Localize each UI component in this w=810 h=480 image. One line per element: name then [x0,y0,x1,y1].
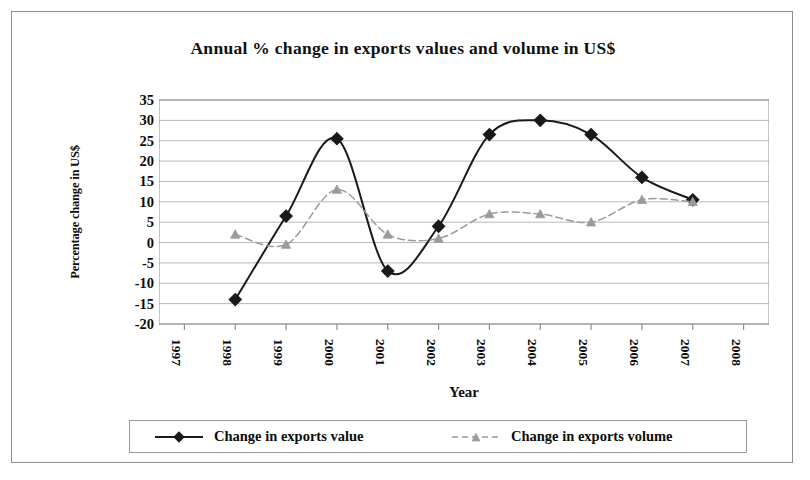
y-tick-label: 35 [140,93,155,107]
y-axis-label: Percentage change in US$ [68,145,83,279]
x-tick-label: 2001 [365,337,411,383]
y-tick-label: 30 [140,113,155,127]
data-series [230,115,698,305]
data-point-marker [281,211,291,221]
data-point-marker [281,240,290,248]
legend-marker [450,430,502,444]
plot-area [159,89,769,335]
y-tick-label: 20 [140,154,155,168]
x-axis-tick-marks [184,324,743,330]
y-tick-label: 5 [147,215,154,229]
x-tick-label: 2007 [670,337,716,383]
data-point-marker [383,230,392,238]
series-line [235,120,693,299]
x-tick-label: 2004 [517,337,563,383]
y-tick-label: -10 [135,276,154,290]
x-tick-label: 2000 [314,337,360,383]
x-axis-tick-labels: 1997199819992000200120022003200420052006… [159,337,769,383]
x-tick-label: 1998 [212,337,258,383]
y-tick-label: -20 [135,317,154,331]
y-tick-label: 10 [140,195,155,209]
axis-lines [159,100,769,324]
chart-title: Annual % change in exports values and vo… [12,38,794,59]
data-point-marker [231,230,240,238]
x-tick-label: 2003 [466,337,512,383]
y-tick-label: 15 [140,174,155,188]
x-tick-label: 2008 [721,337,767,383]
y-tick-label: 25 [140,134,155,148]
x-tick-label: 1997 [161,337,207,383]
y-tick-label: -5 [142,256,154,270]
chart-legend: Change in exports valueChange in exports… [129,420,747,453]
x-tick-label: 2002 [416,337,462,383]
legend-label: Change in exports value [214,428,363,445]
legend-entry[interactable]: Change in exports value [153,421,363,452]
data-point-marker [535,115,545,125]
y-axis-tick-labels: 35302520151050-5-10-15-20 [84,89,154,335]
gridlines [159,100,769,324]
y-tick-label: 0 [147,236,154,250]
x-tick-label: 2005 [568,337,614,383]
y-tick-label: -15 [135,297,154,311]
legend-marker [153,430,205,444]
y-axis-label-wrapper: Percentage change in US$ [64,97,86,327]
chart-frame: Annual % change in exports values and vo… [11,11,793,463]
series-line [235,190,693,247]
data-point-marker [586,129,596,139]
x-axis-label: Year [159,384,769,401]
x-tick-label: 1999 [263,337,309,383]
legend-entry[interactable]: Change in exports volume [450,421,673,452]
legend-label: Change in exports volume [511,428,673,445]
chart-canvas [159,89,769,335]
x-tick-label: 2006 [619,337,665,383]
